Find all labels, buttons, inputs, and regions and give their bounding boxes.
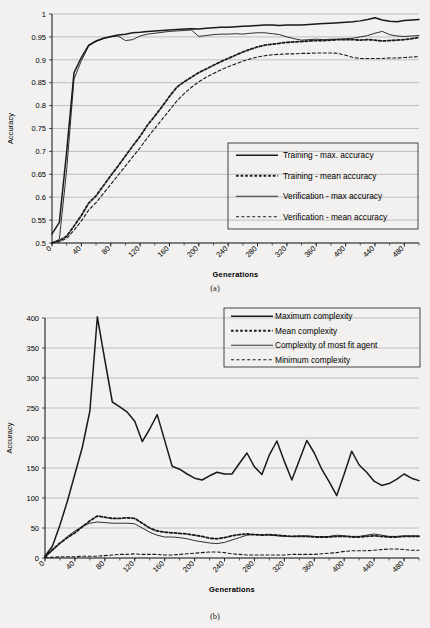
legend-a: Training - max. accuracyTraining - mean …: [228, 143, 418, 229]
x-axis-title: Generations: [209, 585, 255, 594]
y-tick-label: 200: [26, 434, 39, 443]
x-tick-label: 200: [181, 559, 196, 574]
y-tick-label: 0.75: [31, 124, 46, 133]
caption-a: (a): [0, 283, 430, 293]
y-tick-label: 0.55: [31, 216, 46, 225]
y-tick-label: 300: [26, 374, 39, 383]
legend-label-2: Verification - max accuracy: [283, 191, 383, 201]
x-tick-label: 320: [271, 559, 286, 574]
x-tick-label: 240: [211, 559, 226, 574]
x-tick-label: 160: [156, 244, 171, 259]
y-tick-label: 0.85: [31, 78, 46, 87]
x-axis-title: Generations: [213, 270, 259, 279]
x-tick-label: 400: [330, 559, 345, 574]
y-tick-label: 50: [31, 524, 39, 533]
x-tick-label: 360: [300, 559, 315, 574]
legend-label-1: Training - mean accuracy: [283, 171, 377, 181]
y-tick-label: 350: [26, 344, 39, 353]
series-line-2: [45, 522, 419, 557]
y-tick-label: 0.7: [36, 147, 46, 156]
y-tick-label: 400: [26, 314, 39, 323]
x-tick-label: 280: [241, 559, 256, 574]
legend-b: Maximum complexityMean complexityComplex…: [224, 308, 420, 367]
x-tick-label: 120: [126, 244, 141, 259]
x-tick-label: 280: [244, 244, 259, 259]
chart-canvas-a: 0.50.550.60.650.70.750.80.850.90.9510408…: [0, 0, 430, 300]
y-tick-label: 150: [26, 464, 39, 473]
y-tick-label: 0.95: [31, 33, 46, 42]
x-tick-label: 160: [151, 559, 166, 574]
figure-a: 0.50.550.60.650.70.750.80.850.90.9510408…: [0, 0, 430, 300]
x-tick-label: 440: [361, 244, 376, 259]
legend-label-2: Complexity of most fit agent: [275, 340, 378, 350]
legend-label-1: Mean complexity: [275, 326, 338, 336]
legend-label-3: Verification - mean accuracy: [283, 212, 388, 222]
legend-label-3: Minimum complexity: [275, 355, 351, 365]
x-tick-label: 120: [121, 559, 136, 574]
x-tick-label: 440: [360, 559, 375, 574]
y-tick-label: 0.65: [31, 170, 46, 179]
x-tick-label: 240: [214, 244, 229, 259]
y-tick-label: 0.8: [36, 101, 46, 110]
x-tick-label: 480: [391, 244, 406, 259]
y-tick-label: 0.6: [36, 193, 46, 202]
y-tick-label: 100: [26, 494, 39, 503]
chart-canvas-b: 0501001502002503003504000408012016020024…: [0, 300, 430, 628]
caption-b: (b): [0, 611, 430, 621]
series-line-0: [52, 18, 419, 234]
x-tick-label: 480: [390, 559, 405, 574]
legend-label-0: Maximum complexity: [275, 311, 353, 321]
x-tick-label: 320: [273, 244, 288, 259]
y-axis-title: Accuracy: [6, 113, 15, 144]
y-tick-label: 1: [42, 10, 46, 19]
y-axis-title: Accuracy: [5, 422, 14, 453]
x-tick-label: 200: [185, 244, 200, 259]
x-tick-label: 400: [332, 244, 347, 259]
series-line-0: [45, 317, 419, 556]
figure-b: 0501001502002503003504000408012016020024…: [0, 300, 430, 628]
y-tick-label: 250: [26, 404, 39, 413]
legend-label-0: Training - max. accuracy: [283, 150, 374, 160]
x-tick-label: 360: [302, 244, 317, 259]
y-tick-label: 0.9: [36, 56, 46, 65]
series-line-3: [45, 549, 419, 557]
